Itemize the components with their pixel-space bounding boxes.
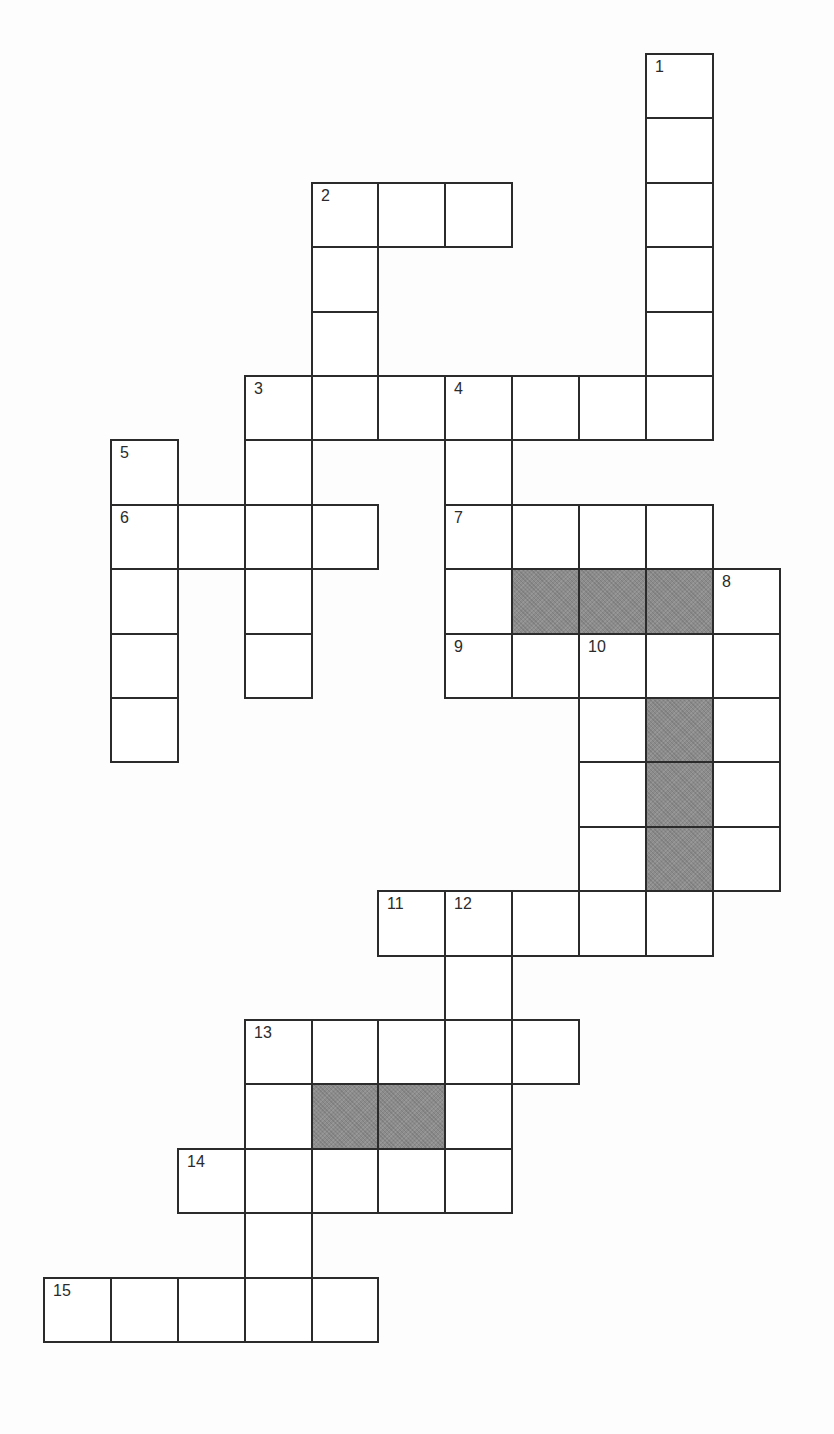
letter-input[interactable] bbox=[379, 1150, 444, 1212]
grid-cell[interactable]: 10 bbox=[578, 633, 647, 699]
letter-input[interactable] bbox=[313, 377, 377, 439]
letter-input[interactable] bbox=[580, 377, 645, 439]
grid-cell[interactable]: 6 bbox=[110, 504, 179, 570]
grid-cell[interactable] bbox=[311, 311, 379, 377]
grid-cell[interactable] bbox=[578, 504, 647, 570]
grid-cell[interactable]: 14 bbox=[177, 1148, 246, 1214]
grid-cell[interactable] bbox=[244, 1277, 313, 1343]
grid-cell[interactable] bbox=[712, 633, 781, 699]
grid-cell[interactable] bbox=[578, 890, 647, 957]
letter-input[interactable] bbox=[246, 1150, 311, 1212]
grid-cell[interactable] bbox=[511, 1019, 580, 1085]
letter-input[interactable] bbox=[446, 506, 511, 568]
letter-input[interactable] bbox=[647, 184, 712, 246]
grid-cell[interactable] bbox=[444, 1083, 513, 1150]
letter-input[interactable] bbox=[513, 377, 578, 439]
grid-cell[interactable]: 11 bbox=[377, 890, 446, 957]
letter-input[interactable] bbox=[446, 635, 511, 697]
letter-input[interactable] bbox=[379, 1021, 444, 1083]
letter-input[interactable] bbox=[112, 441, 177, 504]
letter-input[interactable] bbox=[313, 184, 377, 246]
letter-input[interactable] bbox=[580, 506, 645, 568]
grid-cell[interactable] bbox=[377, 1019, 446, 1085]
grid-cell[interactable] bbox=[444, 955, 513, 1021]
letter-input[interactable] bbox=[446, 184, 511, 246]
grid-cell[interactable] bbox=[645, 246, 714, 313]
letter-input[interactable] bbox=[246, 1279, 311, 1341]
grid-cell[interactable] bbox=[311, 1019, 379, 1085]
letter-input[interactable] bbox=[379, 184, 444, 246]
letter-input[interactable] bbox=[246, 635, 311, 697]
letter-input[interactable] bbox=[446, 377, 511, 439]
letter-input[interactable] bbox=[513, 506, 578, 568]
grid-cell[interactable]: 4 bbox=[444, 375, 513, 441]
letter-input[interactable] bbox=[647, 506, 712, 568]
letter-input[interactable] bbox=[580, 763, 645, 826]
grid-cell[interactable]: 8 bbox=[712, 568, 781, 635]
grid-cell[interactable] bbox=[578, 375, 647, 441]
letter-input[interactable] bbox=[714, 635, 779, 697]
grid-cell[interactable] bbox=[244, 439, 313, 506]
grid-cell[interactable] bbox=[511, 504, 580, 570]
letter-input[interactable] bbox=[647, 119, 712, 182]
letter-input[interactable] bbox=[446, 570, 511, 633]
letter-input[interactable] bbox=[647, 892, 712, 955]
letter-input[interactable] bbox=[112, 1279, 177, 1341]
grid-cell[interactable] bbox=[311, 246, 379, 313]
grid-cell[interactable] bbox=[244, 568, 313, 635]
grid-cell[interactable]: 15 bbox=[43, 1277, 112, 1343]
grid-cell[interactable] bbox=[377, 375, 446, 441]
grid-cell[interactable] bbox=[645, 375, 714, 441]
letter-input[interactable] bbox=[313, 506, 377, 568]
letter-input[interactable] bbox=[313, 1021, 377, 1083]
letter-input[interactable] bbox=[246, 1214, 311, 1277]
grid-cell[interactable]: 3 bbox=[244, 375, 313, 441]
grid-cell[interactable] bbox=[244, 1083, 313, 1150]
letter-input[interactable] bbox=[647, 377, 712, 439]
grid-cell[interactable] bbox=[712, 761, 781, 828]
letter-input[interactable] bbox=[379, 377, 444, 439]
grid-cell[interactable] bbox=[645, 504, 714, 570]
grid-cell[interactable] bbox=[444, 1019, 513, 1085]
grid-cell[interactable]: 2 bbox=[311, 182, 379, 248]
grid-cell[interactable]: 5 bbox=[110, 439, 179, 506]
letter-input[interactable] bbox=[580, 828, 645, 890]
grid-cell[interactable] bbox=[645, 117, 714, 184]
letter-input[interactable] bbox=[112, 506, 177, 568]
letter-input[interactable] bbox=[513, 892, 578, 955]
letter-input[interactable] bbox=[179, 1279, 244, 1341]
letter-input[interactable] bbox=[313, 1150, 377, 1212]
letter-input[interactable] bbox=[112, 570, 177, 633]
letter-input[interactable] bbox=[313, 248, 377, 311]
grid-cell[interactable] bbox=[177, 504, 246, 570]
letter-input[interactable] bbox=[379, 892, 444, 955]
letter-input[interactable] bbox=[580, 635, 645, 697]
grid-cell[interactable] bbox=[444, 439, 513, 506]
letter-input[interactable] bbox=[513, 635, 578, 697]
grid-cell[interactable] bbox=[377, 1148, 446, 1214]
grid-cell[interactable] bbox=[511, 633, 580, 699]
letter-input[interactable] bbox=[179, 506, 244, 568]
grid-cell[interactable] bbox=[110, 1277, 179, 1343]
letter-input[interactable] bbox=[714, 763, 779, 826]
letter-input[interactable] bbox=[446, 1085, 511, 1148]
letter-input[interactable] bbox=[446, 1150, 511, 1212]
letter-input[interactable] bbox=[112, 635, 177, 697]
grid-cell[interactable] bbox=[110, 568, 179, 635]
grid-cell[interactable] bbox=[444, 1148, 513, 1214]
grid-cell[interactable]: 12 bbox=[444, 890, 513, 957]
letter-input[interactable] bbox=[647, 635, 712, 697]
grid-cell[interactable] bbox=[311, 504, 379, 570]
letter-input[interactable] bbox=[246, 506, 311, 568]
grid-cell[interactable] bbox=[712, 697, 781, 763]
letter-input[interactable] bbox=[246, 441, 311, 504]
grid-cell[interactable] bbox=[645, 311, 714, 377]
grid-cell[interactable] bbox=[511, 375, 580, 441]
letter-input[interactable] bbox=[446, 1021, 511, 1083]
grid-cell[interactable] bbox=[110, 697, 179, 763]
letter-input[interactable] bbox=[246, 1085, 311, 1148]
letter-input[interactable] bbox=[580, 699, 645, 761]
letter-input[interactable] bbox=[179, 1150, 244, 1212]
letter-input[interactable] bbox=[647, 248, 712, 311]
grid-cell[interactable] bbox=[578, 761, 647, 828]
